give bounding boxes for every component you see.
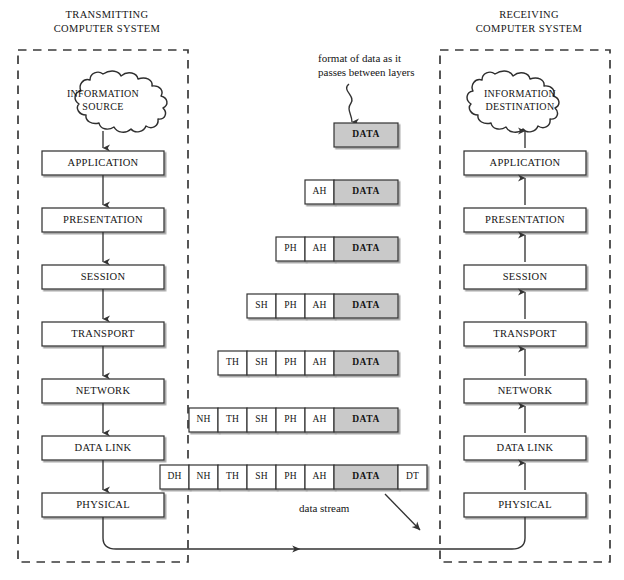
format-of-data-note: format of data as it passes between laye… — [318, 52, 478, 79]
transmitting-system-header: TRANSMITTING COMPUTER SYSTEM — [22, 8, 192, 35]
packet-6-cell-4-label: PH — [276, 415, 305, 425]
packet-4-cell-4-label: DATA — [334, 301, 398, 311]
tx-layer-transport[interactable]: TRANSPORT — [42, 329, 164, 340]
rx-layer-session[interactable]: SESSION — [464, 272, 586, 283]
packet-7-cell-4-label: SH — [247, 472, 276, 482]
packet-2-cell-2-label: DATA — [334, 187, 398, 197]
data-stream-arrow — [385, 494, 420, 530]
packet-6-cell-3-label: SH — [247, 415, 276, 425]
information-destination-label: INFORMATION DESTINATION — [470, 88, 570, 113]
tx-layer-presentation[interactable]: PRESENTATION — [42, 215, 164, 226]
packet-6-cell-5-label: AH — [305, 415, 334, 425]
packet-5-cell-5-label: DATA — [334, 358, 398, 368]
diagram-graphics — [0, 0, 624, 580]
packet-7-cell-1-label: DH — [160, 472, 189, 482]
packet-7-cell-3-label: TH — [218, 472, 247, 482]
rx-layer-network[interactable]: NETWORK — [464, 386, 586, 397]
format-note-arrow — [347, 84, 352, 122]
packet-5-cell-3-label: PH — [276, 358, 305, 368]
tx-layer-physical[interactable]: PHYSICAL — [42, 500, 164, 511]
tx-layer-data-link[interactable]: DATA LINK — [42, 443, 164, 454]
receiving-system-header: RECEIVING COMPUTER SYSTEM — [444, 8, 614, 35]
rx-layer-presentation[interactable]: PRESENTATION — [464, 215, 586, 226]
rx-layer-application[interactable]: APPLICATION — [464, 158, 586, 169]
packet-7-cell-7-label: DATA — [334, 472, 398, 482]
packet-4-cell-1-label: SH — [247, 301, 276, 311]
packet-2-cell-1-label: AH — [305, 187, 334, 197]
packet-7-cell-8-label: DT — [398, 472, 427, 482]
packet-5-cell-2-label: SH — [247, 358, 276, 368]
packet-5-cell-1-label: TH — [218, 358, 247, 368]
rx-layer-physical[interactable]: PHYSICAL — [464, 500, 586, 511]
packet-4-cell-3-label: AH — [305, 301, 334, 311]
packet-7-cell-5-label: PH — [276, 472, 305, 482]
packet-5-cell-4-label: AH — [305, 358, 334, 368]
tx-layer-application[interactable]: APPLICATION — [42, 158, 164, 169]
packet-6-cell-1-label: NH — [189, 415, 218, 425]
data-stream-label: data stream — [299, 502, 389, 516]
tx-layer-network[interactable]: NETWORK — [42, 386, 164, 397]
packet-7-cell-6-label: AH — [305, 472, 334, 482]
packet-4-cell-2-label: PH — [276, 301, 305, 311]
packet-3-cell-2-label: AH — [305, 244, 334, 254]
packet-6-cell-2-label: TH — [218, 415, 247, 425]
physical-medium-link — [103, 517, 525, 549]
tx-layer-session[interactable]: SESSION — [42, 272, 164, 283]
information-source-label: INFORMATION SOURCE — [60, 88, 146, 113]
packet-3-cell-3-label: DATA — [334, 244, 398, 254]
rx-layer-data-link[interactable]: DATA LINK — [464, 443, 586, 454]
packet-1-cell-1-label: DATA — [334, 130, 398, 140]
rx-layer-transport[interactable]: TRANSPORT — [464, 329, 586, 340]
packet-6-cell-6-label: DATA — [334, 415, 398, 425]
packet-7-cell-2-label: NH — [189, 472, 218, 482]
osi-encapsulation-diagram: TRANSMITTING COMPUTER SYSTEM RECEIVING C… — [0, 0, 624, 580]
packet-3-cell-1-label: PH — [276, 244, 305, 254]
